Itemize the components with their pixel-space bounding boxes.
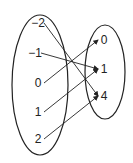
mapping-diagram: −2 −1 0 1 2 0 1 4 — [0, 0, 133, 163]
mapping-arrow — [44, 96, 98, 139]
domain-label: −1 — [28, 46, 42, 60]
mapping-arrow — [41, 53, 98, 69]
range-label: 4 — [101, 89, 108, 103]
mapping-arrows — [41, 23, 98, 139]
mapping-arrow — [44, 40, 98, 83]
mapping-arrow — [44, 69, 98, 112]
range-label: 0 — [101, 33, 108, 47]
mapping-arrow — [44, 23, 98, 96]
domain-label: 2 — [35, 132, 42, 146]
domain-label: 0 — [35, 76, 42, 90]
domain-label: 1 — [35, 105, 42, 119]
domain-labels: −2 −1 0 1 2 — [28, 16, 45, 146]
range-labels: 0 1 4 — [101, 33, 108, 103]
domain-label: −2 — [31, 16, 45, 30]
range-label: 1 — [101, 62, 108, 76]
